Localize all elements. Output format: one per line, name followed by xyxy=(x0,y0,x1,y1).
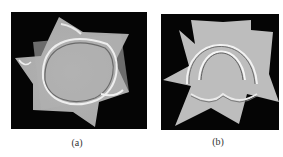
caption-b: (b) xyxy=(198,136,238,147)
caption-a: (a) xyxy=(57,137,97,148)
panel-b-image xyxy=(161,14,279,130)
panel-a-image xyxy=(11,12,147,129)
